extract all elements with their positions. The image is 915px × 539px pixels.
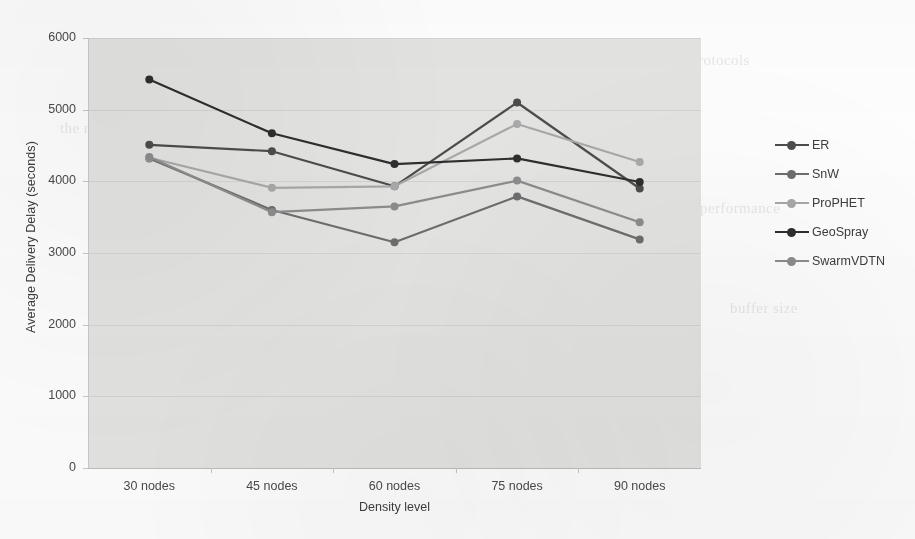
data-point <box>513 192 521 200</box>
data-point <box>268 184 276 192</box>
series-line <box>149 124 639 188</box>
legend-marker-icon <box>775 255 809 267</box>
legend-item-swarmvdtn[interactable]: SwarmVDTN <box>775 246 910 275</box>
legend-item-geospray[interactable]: GeoSpray <box>775 217 910 246</box>
legend-item-prophet[interactable]: ProPHET <box>775 188 910 217</box>
series-line <box>149 158 639 242</box>
legend-marker-icon <box>775 197 809 209</box>
legend-item-label: ER <box>812 138 829 152</box>
data-point <box>513 120 521 128</box>
legend-item-label: ProPHET <box>812 196 865 210</box>
data-point <box>636 158 644 166</box>
data-point <box>391 160 399 168</box>
data-point <box>145 141 153 149</box>
data-point <box>145 76 153 84</box>
x-axis-title: Density level <box>88 500 701 514</box>
series-prophet <box>145 120 643 192</box>
data-point <box>636 235 644 243</box>
data-point <box>145 153 153 161</box>
legend-item-snw[interactable]: SnW <box>775 159 910 188</box>
y-axis-title: Average Delivery Delay (seconds) <box>24 87 38 387</box>
legend-item-er[interactable]: ER <box>775 130 910 159</box>
figure-root: presented in this sectionthe results obt… <box>0 0 915 539</box>
data-point <box>391 182 399 190</box>
data-point <box>268 208 276 216</box>
series-geospray <box>145 76 643 186</box>
series-er <box>145 99 643 193</box>
legend-marker-icon <box>775 139 809 151</box>
chart-legend: ERSnWProPHETGeoSpraySwarmVDTN <box>775 130 910 275</box>
data-point <box>391 202 399 210</box>
data-point <box>513 99 521 107</box>
data-point <box>513 177 521 185</box>
legend-marker-icon <box>775 226 809 238</box>
data-point <box>268 147 276 155</box>
legend-marker-icon <box>775 168 809 180</box>
data-point <box>636 178 644 186</box>
legend-item-label: GeoSpray <box>812 225 868 239</box>
legend-item-label: SwarmVDTN <box>812 254 885 268</box>
data-point <box>513 154 521 162</box>
data-point <box>268 129 276 137</box>
legend-item-label: SnW <box>812 167 839 181</box>
data-point <box>391 238 399 246</box>
data-point <box>636 218 644 226</box>
